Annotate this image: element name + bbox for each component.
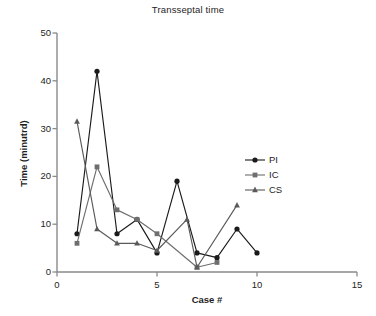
data-point <box>94 226 100 231</box>
legend-label-0: PI <box>266 154 278 165</box>
x-tick-label: 15 <box>345 279 369 290</box>
y-tick-label: 0 <box>25 266 51 277</box>
series-group <box>74 69 260 270</box>
y-tick-label: 40 <box>25 75 51 86</box>
series-CS <box>74 118 240 269</box>
x-tick-label: 5 <box>145 279 169 290</box>
data-point <box>194 250 199 255</box>
data-point <box>174 179 179 184</box>
y-tick-label: 30 <box>25 123 51 134</box>
data-point <box>115 207 120 212</box>
data-point <box>135 217 140 222</box>
data-point <box>155 231 160 236</box>
series-PI <box>74 69 259 261</box>
legend-item-2: CS <box>244 182 300 197</box>
x-tick-label: 0 <box>45 279 69 290</box>
data-point <box>95 164 100 169</box>
legend-marker-circle-icon <box>244 154 266 166</box>
x-tick-label: 10 <box>245 279 269 290</box>
legend-label-2: CS <box>266 184 282 195</box>
plot-area <box>0 0 376 316</box>
data-point <box>234 202 240 207</box>
data-point <box>114 231 119 236</box>
y-tick-label: 10 <box>25 218 51 229</box>
data-point <box>74 118 80 123</box>
data-point <box>75 241 80 246</box>
legend-marker-square-icon <box>244 169 266 181</box>
chart-figure: Transseptal time Time (minutrd) Case # 0… <box>0 0 376 316</box>
chart-title: Transseptal time <box>0 4 376 15</box>
legend-item-0: PI <box>244 152 300 167</box>
data-point <box>214 255 219 260</box>
legend-label-1: IC <box>266 169 279 180</box>
data-point <box>215 260 220 265</box>
legend-marker-triangle-icon <box>244 184 266 196</box>
y-tick-label: 50 <box>25 27 51 38</box>
legend-item-1: IC <box>244 167 300 182</box>
x-axis-label: Case # <box>57 294 357 305</box>
y-tick-label: 20 <box>25 170 51 181</box>
data-point <box>234 226 239 231</box>
data-point <box>254 250 259 255</box>
chart-legend: PI IC CS <box>244 152 300 197</box>
data-point <box>184 216 190 221</box>
y-axis-label: Time (minutrd) <box>18 79 29 229</box>
data-point <box>94 69 99 74</box>
